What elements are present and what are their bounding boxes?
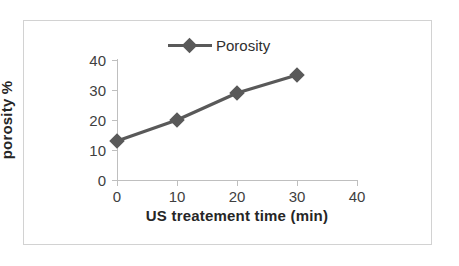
series-line-porosity [0, 0, 459, 266]
chart-figure: Porosity 0 10 20 30 40 0 10 20 30 40 por… [0, 0, 459, 266]
